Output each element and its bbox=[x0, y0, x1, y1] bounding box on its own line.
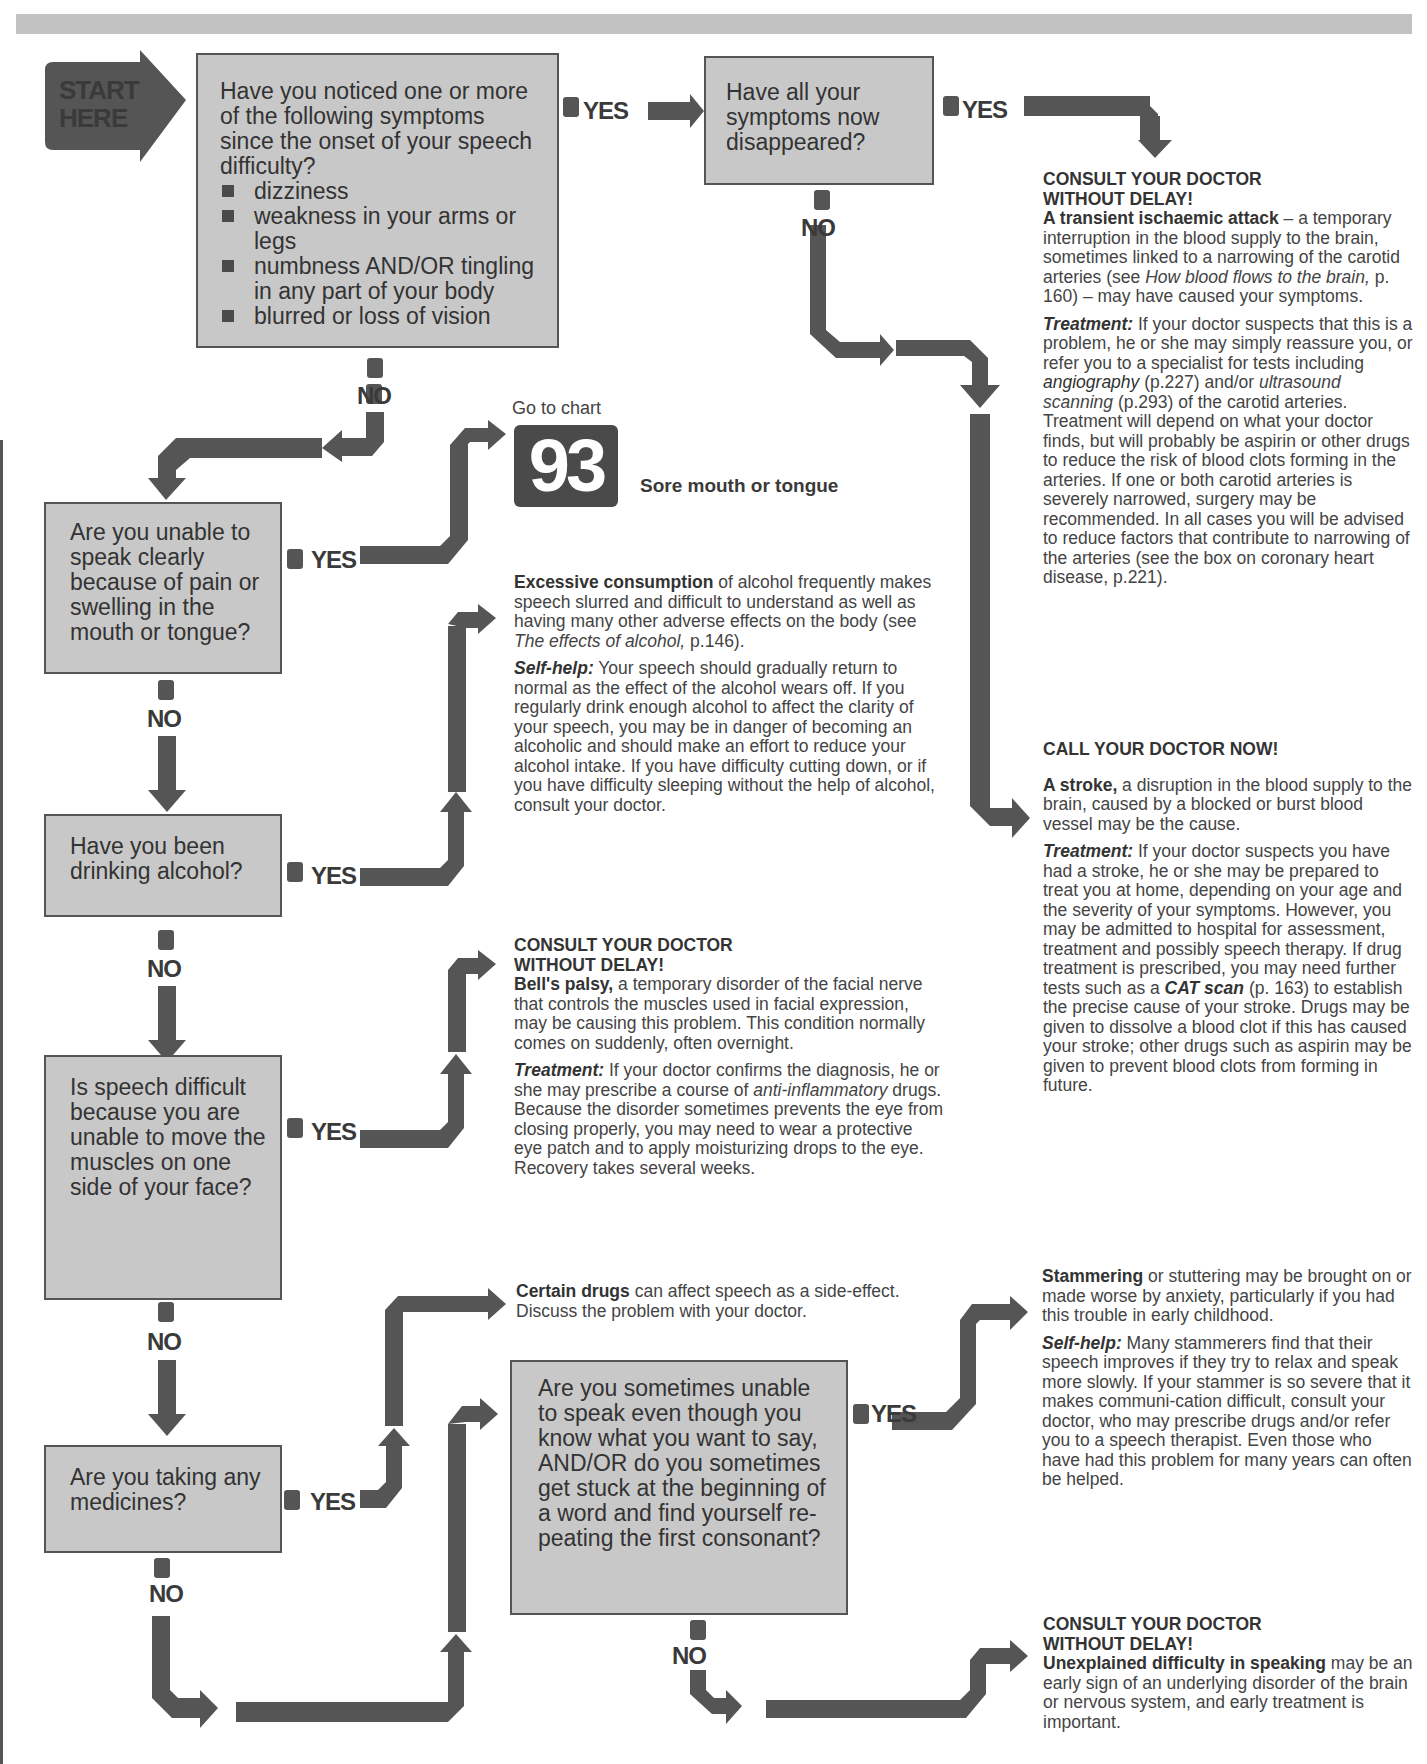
yes-marker-icon bbox=[287, 549, 303, 569]
yes-marker-icon bbox=[287, 1118, 303, 1138]
outcome-unexplained-difficulty: CONSULT YOUR DOCTOR WITHOUT DELAY! Unexp… bbox=[1043, 1615, 1413, 1740]
question-box-alcohol[interactable]: Have you been drinking alcohol? bbox=[44, 814, 282, 917]
yes-marker-icon bbox=[853, 1404, 869, 1424]
outcome-stammering: Stammering or stuttering may be brought … bbox=[1042, 1267, 1414, 1498]
outcome-heading: WITHOUT DELAY! bbox=[514, 956, 944, 976]
outcome-heading: CONSULT YOUR DOCTOR bbox=[1043, 170, 1413, 190]
cross-reference[interactable]: CAT scan bbox=[1165, 978, 1244, 998]
condition-term: A transient ischaemic attack bbox=[1043, 208, 1279, 228]
symptom-item: blurred or loss of vision bbox=[220, 304, 539, 329]
self-help-label: Self-help: bbox=[514, 658, 594, 678]
outcome-alcohol: Excessive consumption of alcohol frequen… bbox=[514, 573, 944, 823]
outcome-text: p.146). bbox=[685, 631, 744, 651]
question-text: Have you noticed one or more of the foll… bbox=[220, 79, 539, 179]
no-label[interactable]: NO bbox=[801, 214, 835, 242]
no-marker-icon bbox=[367, 358, 383, 378]
question-box-pain-swelling[interactable]: Are you unable to speak clearly because … bbox=[44, 502, 282, 674]
yes-label[interactable]: YES bbox=[311, 862, 356, 890]
outcome-text: Many stammerers find that their speech i… bbox=[1042, 1333, 1412, 1490]
start-label-line1: START bbox=[59, 76, 163, 104]
yes-marker-icon bbox=[287, 862, 303, 882]
cross-reference[interactable]: The effects of alcohol, bbox=[514, 631, 685, 651]
yes-label[interactable]: YES bbox=[310, 1488, 355, 1516]
condition-term: Bell's palsy, bbox=[514, 974, 613, 994]
no-marker-icon bbox=[814, 190, 830, 210]
no-label[interactable]: NO bbox=[147, 705, 181, 733]
no-label[interactable]: NO bbox=[147, 1328, 181, 1356]
condition-term: Excessive consumption bbox=[514, 572, 713, 592]
outcome-text: Your speech should gradually return to n… bbox=[514, 658, 935, 815]
question-box-stammer[interactable]: Are you sometimes unable to speak even t… bbox=[510, 1360, 848, 1615]
outcome-certain-drugs: Certain drugs can affect speech as a sid… bbox=[516, 1282, 946, 1329]
outcome-transient-ischaemic-attack: CONSULT YOUR DOCTOR WITHOUT DELAY! A tra… bbox=[1043, 170, 1413, 596]
outcome-text: (p.227) and/or bbox=[1139, 372, 1259, 392]
symptom-list: dizziness weakness in your arms or legs … bbox=[220, 179, 539, 329]
no-label[interactable]: NO bbox=[672, 1642, 706, 1670]
question-text: Are you taking any medicines? bbox=[70, 1465, 266, 1515]
outcome-text: (p.293) of the carotid arteries. Treatme… bbox=[1043, 392, 1410, 588]
treatment-label: Treatment: bbox=[514, 1060, 604, 1080]
symptom-item: numbness AND/OR tingling in any part of … bbox=[220, 254, 539, 304]
question-text: Is speech difficult because you are unab… bbox=[70, 1075, 266, 1200]
question-box-symptoms-disappeared[interactable]: Have all your symptoms now disappeared? bbox=[704, 56, 934, 185]
condition-term: Unexplained difficulty in speaking bbox=[1043, 1653, 1326, 1673]
condition-term: A stroke, bbox=[1043, 775, 1117, 795]
treatment-label: Treatment: bbox=[1043, 841, 1133, 861]
start-label-line2: HERE bbox=[59, 104, 163, 132]
cross-reference[interactable]: anti-inflammatory bbox=[753, 1080, 887, 1100]
yes-marker-icon bbox=[943, 96, 959, 116]
yes-label[interactable]: YES bbox=[311, 1118, 356, 1146]
treatment-label: Treatment: bbox=[1043, 314, 1133, 334]
no-label[interactable]: NO bbox=[357, 382, 391, 410]
outcome-heading: CONSULT YOUR DOCTOR bbox=[514, 936, 944, 956]
outcome-text: If your doctor suspects you have had a s… bbox=[1043, 841, 1402, 998]
outcome-heading: CONSULT YOUR DOCTOR bbox=[1043, 1615, 1413, 1635]
outcome-heading: WITHOUT DELAY! bbox=[1043, 1635, 1413, 1655]
question-text: Are you sometimes unable to speak even t… bbox=[538, 1376, 832, 1551]
yes-marker-icon bbox=[284, 1490, 300, 1510]
cross-reference[interactable]: angiography bbox=[1043, 372, 1139, 392]
no-label[interactable]: NO bbox=[149, 1580, 183, 1608]
question-box-medicines[interactable]: Are you taking any medicines? bbox=[44, 1445, 282, 1553]
goto-chart-label: Go to chart bbox=[512, 398, 601, 419]
condition-term: Certain drugs bbox=[516, 1281, 630, 1301]
outcome-heading: CALL YOUR DOCTOR NOW! bbox=[1043, 740, 1413, 760]
symptom-item: dizziness bbox=[220, 179, 539, 204]
start-here-marker: START HERE bbox=[45, 52, 163, 152]
chart-title-link[interactable]: Sore mouth or tongue bbox=[640, 475, 838, 497]
question-box-symptoms[interactable]: Have you noticed one or more of the foll… bbox=[196, 53, 559, 348]
outcome-bells-palsy: CONSULT YOUR DOCTOR WITHOUT DELAY! Bell'… bbox=[514, 936, 944, 1186]
yes-label[interactable]: YES bbox=[871, 1400, 916, 1428]
question-box-facial-muscles[interactable]: Is speech difficult because you are unab… bbox=[44, 1055, 282, 1300]
cross-reference[interactable]: How blood flows to the brain, bbox=[1145, 267, 1370, 287]
symptom-item: weakness in your arms or legs bbox=[220, 204, 539, 254]
question-text: Have all your symptoms now disappeared? bbox=[726, 80, 918, 155]
question-text: Have you been drinking alcohol? bbox=[70, 834, 266, 884]
condition-term: Stammering bbox=[1042, 1266, 1143, 1286]
yes-marker-icon bbox=[563, 97, 579, 117]
yes-label[interactable]: YES bbox=[583, 97, 628, 125]
chart-number-badge[interactable]: 93 bbox=[514, 425, 618, 507]
yes-label[interactable]: YES bbox=[962, 96, 1007, 124]
outcome-heading: WITHOUT DELAY! bbox=[1043, 190, 1413, 210]
no-label[interactable]: NO bbox=[147, 955, 181, 983]
question-text: Are you unable to speak clearly because … bbox=[70, 520, 266, 645]
outcome-stroke: CALL YOUR DOCTOR NOW! A stroke, a disrup… bbox=[1043, 740, 1413, 1104]
self-help-label: Self-help: bbox=[1042, 1333, 1122, 1353]
yes-label[interactable]: YES bbox=[311, 546, 356, 574]
